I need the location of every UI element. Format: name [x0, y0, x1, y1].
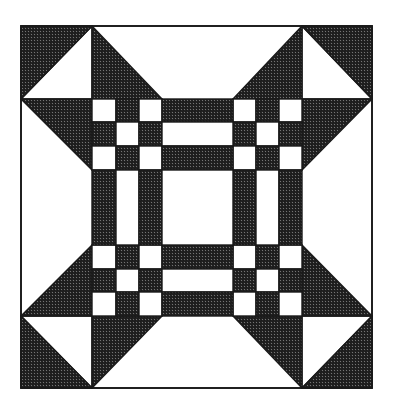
sashing-bottom-strip [162, 245, 233, 269]
sashing-top-strip [162, 99, 233, 122]
nine-patch-bottom-left-cell [116, 269, 139, 292]
nine-patch-top-right-cell [233, 146, 256, 170]
nine-patch-top-right-cell [233, 122, 256, 146]
nine-patch-top-right-cell [279, 99, 302, 122]
sashing-top-strip [162, 122, 233, 146]
nine-patch-bottom-right-cell [256, 245, 279, 269]
nine-patch-top-left-cell [92, 146, 116, 170]
nine-patch-bottom-right-cell [233, 245, 256, 269]
nine-patch-top-right-cell [256, 146, 279, 170]
nine-patch-top-left-cell [139, 122, 162, 146]
sashing-bottom-strip [162, 292, 233, 316]
nine-patch-bottom-right-cell [279, 292, 302, 316]
nine-patch-top-left-cell [116, 122, 139, 146]
sashing-top-strip [162, 146, 233, 170]
nine-patch-bottom-right-cell [233, 269, 256, 292]
nine-patch-bottom-left-cell [139, 292, 162, 316]
center-square [162, 170, 233, 245]
nine-patch-bottom-right-cell [279, 269, 302, 292]
quilt-fills [21, 26, 372, 388]
sashing-left-strip [92, 170, 116, 245]
nine-patch-top-right-cell [279, 146, 302, 170]
sashing-left-strip [139, 170, 162, 245]
sashing-left-strip [116, 170, 139, 245]
nine-patch-bottom-left-cell [139, 269, 162, 292]
nine-patch-bottom-left-cell [116, 292, 139, 316]
nine-patch-bottom-right-cell [256, 269, 279, 292]
nine-patch-top-left-cell [139, 99, 162, 122]
nine-patch-top-left-cell [92, 99, 116, 122]
nine-patch-bottom-left-cell [92, 292, 116, 316]
sashing-bottom-strip [162, 269, 233, 292]
nine-patch-top-right-cell [279, 122, 302, 146]
quilt-block-diagram [0, 0, 395, 411]
nine-patch-bottom-left-cell [92, 269, 116, 292]
nine-patch-top-left-cell [116, 99, 139, 122]
sashing-right-strip [233, 170, 256, 245]
nine-patch-bottom-right-cell [233, 292, 256, 316]
nine-patch-bottom-left-cell [139, 245, 162, 269]
sashing-right-strip [279, 170, 302, 245]
nine-patch-bottom-left-cell [92, 245, 116, 269]
nine-patch-top-right-cell [256, 99, 279, 122]
sashing-right-strip [256, 170, 279, 245]
nine-patch-top-right-cell [256, 122, 279, 146]
nine-patch-top-left-cell [116, 146, 139, 170]
nine-patch-bottom-right-cell [279, 245, 302, 269]
nine-patch-top-left-cell [92, 122, 116, 146]
nine-patch-top-left-cell [139, 146, 162, 170]
nine-patch-bottom-left-cell [116, 245, 139, 269]
nine-patch-top-right-cell [233, 99, 256, 122]
nine-patch-bottom-right-cell [256, 292, 279, 316]
